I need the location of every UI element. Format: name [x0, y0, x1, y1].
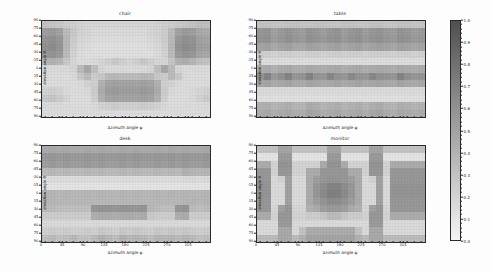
- heatmap-cell: [355, 227, 362, 234]
- heatmap-cell: [133, 212, 140, 219]
- heatmap-cell: [56, 190, 63, 197]
- heatmap-cell: [383, 190, 390, 197]
- heatmap-cell: [63, 198, 70, 205]
- heatmap-cell: [84, 153, 91, 160]
- heatmap-cell: [84, 168, 91, 175]
- heatmap-cell: [203, 36, 210, 43]
- heatmap-cell: [390, 43, 397, 50]
- heatmap-cell: [77, 176, 84, 183]
- heatmap-cell: [264, 80, 271, 87]
- heatmap-cell: [292, 73, 299, 80]
- x-tick-mark-minor: [413, 116, 414, 117]
- x-tick-mark-minor: [51, 116, 52, 117]
- heatmap-cell: [70, 212, 77, 219]
- heatmap-cell: [327, 58, 334, 65]
- heatmap-cell: [313, 212, 320, 219]
- heatmap-cell: [56, 87, 63, 94]
- heatmap-cell: [112, 80, 119, 87]
- heatmap-cell: [203, 95, 210, 102]
- heatmap-cell: [98, 168, 105, 175]
- heatmap-cell: [49, 21, 56, 28]
- heatmap-cell: [49, 205, 56, 212]
- heatmap-cell: [56, 183, 63, 190]
- x-tick-mark: [188, 116, 189, 118]
- x-tick-mark-minor: [392, 116, 393, 117]
- heatmap-cell: [70, 198, 77, 205]
- heatmap-cell: [203, 205, 210, 212]
- heatmap-cell: [203, 176, 210, 183]
- heatmap-cell: [49, 190, 56, 197]
- heatmap-cell: [189, 51, 196, 58]
- y-tick-mark: [254, 76, 256, 77]
- x-tick-mark: [319, 116, 320, 118]
- heatmap-cell: [299, 220, 306, 227]
- heatmap-cell: [271, 190, 278, 197]
- heatmap-cell: [404, 58, 411, 65]
- heatmap-cell: [98, 58, 105, 65]
- heatmap-cell: [271, 205, 278, 212]
- heatmap-cell: [91, 161, 98, 168]
- heatmap-cell: [77, 102, 84, 109]
- y-tick-mark: [254, 177, 256, 178]
- heatmap-cell: [154, 227, 161, 234]
- heatmap-cell: [264, 190, 271, 197]
- heatmap-cell: [418, 36, 425, 43]
- heatmap-cell: [278, 205, 285, 212]
- heatmap-cell: [49, 153, 56, 160]
- heatmap-cell: [147, 227, 154, 234]
- x-tick-mark-minor: [44, 116, 45, 117]
- heatmap-cell: [418, 65, 425, 72]
- heatmap-cell: [63, 110, 70, 117]
- heatmap-cell: [418, 28, 425, 35]
- heatmap-cell: [397, 190, 404, 197]
- heatmap-cell: [56, 153, 63, 160]
- heatmap-cell: [203, 102, 210, 109]
- heatmap-cell: [362, 227, 369, 234]
- heatmap-cell: [341, 95, 348, 102]
- heatmap-cell: [140, 51, 147, 58]
- y-tick-mark: [39, 60, 41, 61]
- heatmap-cell: [126, 161, 133, 168]
- heatmap-cell: [411, 212, 418, 219]
- heatmap-cell: [91, 190, 98, 197]
- heatmap-cell: [362, 176, 369, 183]
- heatmap-cell: [348, 80, 355, 87]
- heatmap-cell: [105, 227, 112, 234]
- heatmap-cell: [369, 168, 376, 175]
- heatmap-cell: [105, 21, 112, 28]
- heatmap-cell: [70, 183, 77, 190]
- heatmap-cell: [112, 227, 119, 234]
- heatmap-cell: [84, 205, 91, 212]
- heatmap-cell: [278, 161, 285, 168]
- heatmap-cell: [119, 21, 126, 28]
- heatmap-cell: [341, 80, 348, 87]
- y-tick-mark: [39, 177, 41, 178]
- heatmap-cell: [383, 28, 390, 35]
- heatmap-cell: [334, 176, 341, 183]
- heatmap-cell: [42, 235, 49, 242]
- heatmap-cell: [49, 95, 56, 102]
- y-tick-mark: [254, 84, 256, 85]
- heatmap-cell: [154, 65, 161, 72]
- heatmap-cell: [257, 227, 264, 234]
- heatmap-cell: [299, 87, 306, 94]
- heatmap-cell: [397, 58, 404, 65]
- heatmap-cell: [105, 110, 112, 117]
- heatmap-cell: [182, 212, 189, 219]
- heatmap-cell: [161, 183, 168, 190]
- heatmap-cell: [285, 87, 292, 94]
- y-tick-mark: [39, 153, 41, 154]
- heatmap-cell: [418, 21, 425, 28]
- x-axis-label: azimuth angle ψ: [256, 125, 424, 130]
- heatmap-cell: [390, 235, 397, 242]
- colorbar-tick-mark-minor: [461, 126, 462, 127]
- heatmap-cell: [189, 36, 196, 43]
- heatmap-cell: [168, 205, 175, 212]
- heatmap-cell: [189, 161, 196, 168]
- heatmap-cell: [49, 235, 56, 242]
- heatmap-cell: [70, 161, 77, 168]
- heatmap-cell: [105, 153, 112, 160]
- heatmap-cell: [56, 220, 63, 227]
- y-tick-mark: [254, 68, 256, 69]
- heatmap-cell: [70, 87, 77, 94]
